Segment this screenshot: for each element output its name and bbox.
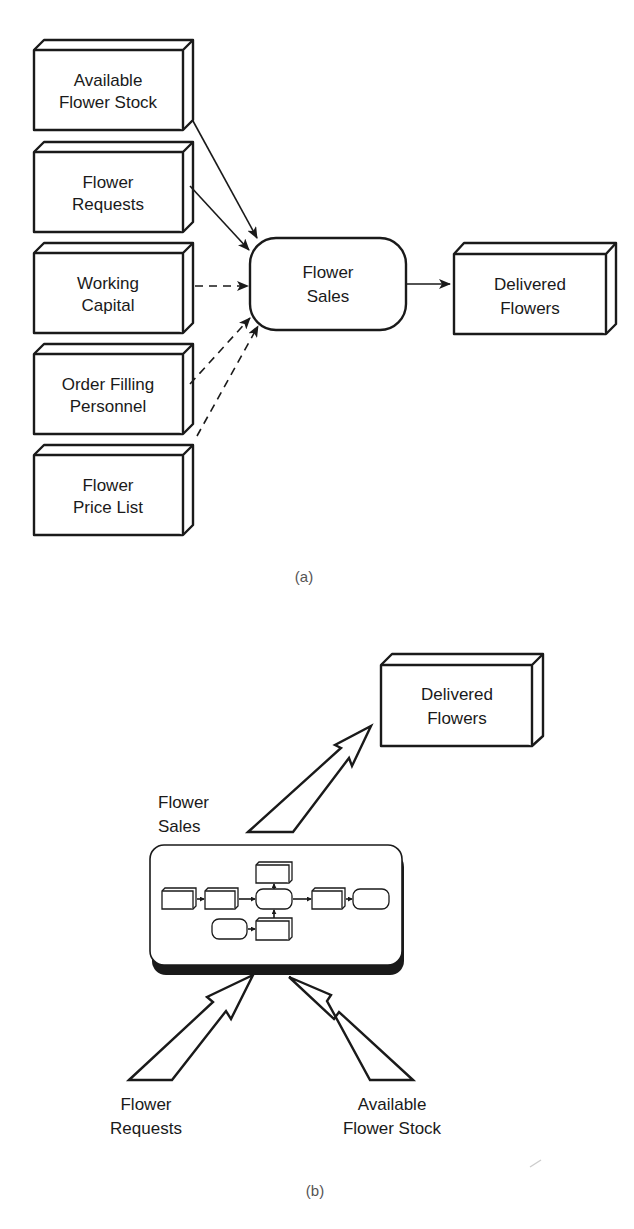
svg-text:Requests: Requests: [72, 195, 144, 214]
svg-text:Delivered: Delivered: [421, 685, 493, 704]
caption-a: (a): [295, 568, 313, 585]
svg-text:Flower Stock: Flower Stock: [59, 93, 158, 112]
svg-text:Requests: Requests: [110, 1119, 182, 1138]
svg-text:Capital: Capital: [82, 296, 135, 315]
svg-text:Order Filling: Order Filling: [62, 375, 155, 394]
svg-text:Flower: Flower: [120, 1095, 171, 1114]
arrow-solid-stock: [193, 121, 257, 238]
input-box-available-flower-stock: Available Flower Stock: [34, 40, 193, 130]
stray-mark: [530, 1160, 541, 1167]
arrow-dashed-price-list: [197, 326, 258, 436]
svg-text:Available: Available: [358, 1095, 427, 1114]
arrow-solid-requests: [190, 186, 249, 250]
input-box-order-filling-personnel: Order Filling Personnel: [34, 344, 193, 434]
hollow-arrow-available-flower-stock: [289, 977, 413, 1080]
svg-text:Flower: Flower: [302, 263, 353, 282]
svg-text:Working: Working: [77, 274, 139, 293]
flower-sales-diagram: Available Flower Stock Flower Requests W…: [0, 0, 634, 1229]
input-box-flower-price-list: Flower Price List: [34, 445, 193, 535]
diagram-a: Available Flower Stock Flower Requests W…: [34, 40, 616, 585]
svg-text:Price List: Price List: [73, 498, 143, 517]
hollow-arrow-flower-requests: [129, 975, 253, 1080]
diagram-b: Delivered Flowers Flower Sales: [110, 654, 543, 1199]
svg-text:Available: Available: [74, 71, 143, 90]
svg-text:Flowers: Flowers: [427, 709, 487, 728]
svg-text:Flower: Flower: [82, 476, 133, 495]
svg-text:Flower: Flower: [82, 173, 133, 192]
output-box-delivered-flowers: Delivered Flowers: [454, 243, 616, 334]
svg-text:Sales: Sales: [158, 817, 201, 836]
svg-text:Personnel: Personnel: [70, 397, 147, 416]
hollow-arrow-output: [248, 726, 371, 832]
svg-text:Flower: Flower: [158, 793, 209, 812]
svg-text:Flower Stock: Flower Stock: [343, 1119, 442, 1138]
output-box-delivered-flowers-b: Delivered Flowers: [381, 654, 543, 746]
arrow-dashed-personnel: [190, 318, 250, 384]
svg-text:Flowers: Flowers: [500, 299, 560, 318]
process-flower-sales: Flower Sales: [250, 238, 406, 330]
input-box-flower-requests: Flower Requests: [34, 142, 193, 232]
svg-text:Sales: Sales: [307, 287, 350, 306]
caption-b: (b): [306, 1182, 324, 1199]
svg-text:Delivered: Delivered: [494, 275, 566, 294]
process-container-flower-sales: [150, 845, 404, 975]
input-box-working-capital: Working Capital: [34, 243, 193, 333]
